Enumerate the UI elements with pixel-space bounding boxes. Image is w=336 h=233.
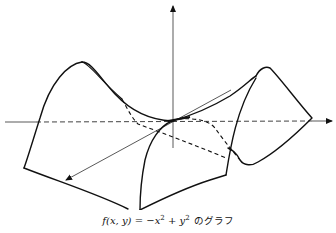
saddle-surface-figure bbox=[0, 0, 336, 210]
caption-suffix: のグラフ bbox=[194, 215, 234, 226]
function-label: f(x, y) bbox=[102, 215, 131, 226]
exponent-y: 2 bbox=[185, 214, 189, 222]
term-y: + y bbox=[165, 215, 185, 226]
figure-caption: f(x, y) = −x2 + y2のグラフ bbox=[0, 213, 336, 227]
diagonal-axis bbox=[66, 90, 231, 180]
hidden-contours bbox=[122, 99, 240, 160]
equals-sign: = bbox=[132, 215, 147, 226]
saddle-surface bbox=[24, 62, 312, 210]
term-x: −x bbox=[146, 215, 160, 226]
